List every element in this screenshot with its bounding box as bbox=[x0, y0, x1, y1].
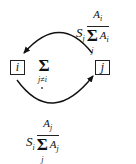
numerator: Aj bbox=[43, 117, 52, 134]
sigma-symbol: Σ bbox=[37, 58, 51, 74]
sigma-subscript: j≠i bbox=[34, 75, 51, 84]
coef-s: Si bbox=[26, 134, 35, 152]
numerator: Ai bbox=[93, 8, 102, 25]
top-edge-label: Sj Ai Σ j Ai bbox=[76, 8, 109, 58]
coef-s: Sj bbox=[76, 25, 85, 43]
fraction: Ai Σ j Ai bbox=[87, 8, 109, 58]
denominator: Σ j Ai bbox=[87, 28, 109, 58]
center-summation: Σ j≠i bbox=[37, 58, 51, 84]
node-i-label: i bbox=[16, 60, 19, 74]
denominator: Σ j Aj bbox=[37, 137, 59, 164]
fraction: Aj Σ j Aj bbox=[37, 117, 59, 164]
node-i: i bbox=[10, 60, 25, 75]
dot-mark bbox=[41, 87, 43, 89]
bottom-edge-label: Si Aj Σ j Aj bbox=[26, 117, 59, 164]
node-j-label: j bbox=[101, 60, 104, 74]
node-j: j bbox=[95, 60, 110, 75]
arrow-i-to-j bbox=[17, 76, 93, 103]
flow-arrows bbox=[0, 0, 136, 164]
